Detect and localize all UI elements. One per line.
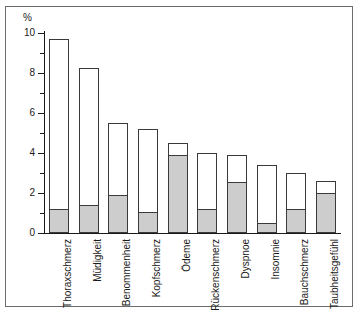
bar-lower-segment [286,209,306,233]
plot-area [44,33,341,233]
x-axis-category-label: Bauchschmerz [300,239,310,305]
bar-group [108,33,128,233]
y-tick-label: 6 [18,108,35,118]
bar-lower-segment [257,223,277,233]
x-axis-line [44,233,341,234]
bar-lower-segment [197,209,217,233]
x-axis-category-label: Taubheitsgefühl [330,239,340,309]
y-tick-major [38,233,45,234]
bar-lower-segment [108,195,128,233]
bar-group [227,33,247,233]
bar-group [257,33,277,233]
figure-container: % 0246810 ThoraxschmerzMüdigkeitBenommen… [0,0,360,318]
y-tick-label: 10 [18,28,35,38]
y-tick-label: 2 [18,188,35,198]
bar-group [168,33,188,233]
y-tick-label: 0 [18,228,35,238]
x-axis-category-label: Thoraxschmerz [63,239,73,308]
y-axis-unit-label: % [23,12,32,23]
x-axis-category-label: Müdigkeit [93,239,103,282]
x-axis-category-label: Kopfschmerz [152,239,162,297]
bar-lower-segment [79,205,99,233]
bar-lower-segment [316,193,336,233]
y-tick-label: 4 [18,148,35,158]
x-axis-category-label: Dyspnoe [241,239,251,278]
bar-group [286,33,306,233]
y-tick-label: 8 [18,68,35,78]
bar-group [138,33,158,233]
bar-lower-segment [49,209,69,233]
x-axis-category-label: Benommenheit [122,239,132,306]
bar-group [79,33,99,233]
x-axis-category-label: Insomnie [271,239,281,280]
bar-lower-segment [227,182,247,233]
x-axis-category-label: Rückenschmerz [211,239,221,311]
bar-group [49,33,69,233]
bar-lower-segment [138,212,158,233]
bar-total-segment [49,39,69,233]
bar-group [197,33,217,233]
bar-group [316,33,336,233]
bar-lower-segment [168,155,188,233]
x-axis-category-label: Ödeme [182,239,192,272]
